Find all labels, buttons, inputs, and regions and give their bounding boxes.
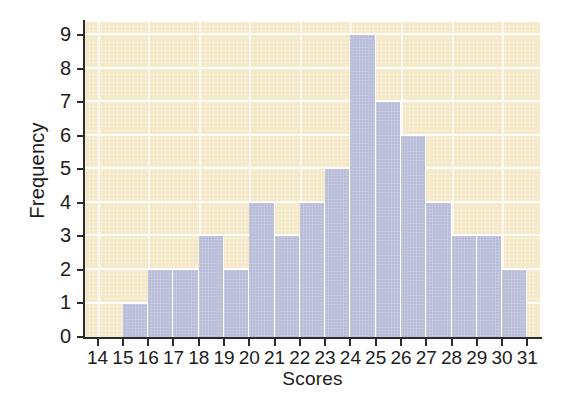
histogram-bar	[401, 136, 426, 337]
y-axis-tick	[77, 302, 84, 304]
y-axis-tick	[77, 336, 84, 338]
x-axis-tick	[223, 339, 225, 346]
histogram-bar	[199, 236, 224, 337]
y-axis-tick-label: 1	[31, 292, 71, 312]
histogram-bar	[350, 35, 375, 337]
y-axis-tick-label: 6	[31, 125, 71, 145]
y-axis-tick	[77, 101, 84, 103]
y-axis-tick-label: 3	[31, 225, 71, 245]
gridline-vertical	[98, 22, 100, 337]
x-axis-tick	[451, 339, 453, 346]
gridline-horizontal	[85, 134, 540, 136]
x-axis-tick	[299, 339, 301, 346]
x-axis-tick-label: 31	[510, 348, 544, 367]
x-axis-tick	[324, 339, 326, 346]
y-axis-tick	[77, 235, 84, 237]
y-axis-tick	[77, 202, 84, 204]
histogram-bar	[452, 236, 477, 337]
y-axis-tick-label: 4	[31, 192, 71, 212]
x-axis-tick	[147, 339, 149, 346]
x-axis-tick	[274, 339, 276, 346]
gridline-horizontal	[85, 100, 540, 102]
histogram-figure: Frequency 0123456789 1415161718192021222…	[0, 0, 580, 407]
histogram-bar	[502, 270, 527, 337]
y-axis-tick	[77, 135, 84, 137]
x-axis-tick	[501, 339, 503, 346]
x-axis-line	[83, 337, 542, 339]
x-axis-tick	[375, 339, 377, 346]
gridline-horizontal	[85, 167, 540, 169]
gridline-horizontal	[85, 67, 540, 69]
plot-area	[85, 22, 540, 337]
y-axis-tick-label: 7	[31, 91, 71, 111]
histogram-bar	[300, 203, 325, 337]
y-axis-tick-label: 9	[31, 24, 71, 44]
y-axis-tick	[77, 68, 84, 70]
histogram-bar	[123, 304, 148, 338]
gridline-horizontal	[85, 33, 540, 35]
x-axis-tick	[349, 339, 351, 346]
x-axis-tick	[476, 339, 478, 346]
y-axis-tick-label: 2	[31, 259, 71, 279]
histogram-bar	[275, 236, 300, 337]
x-axis-tick	[198, 339, 200, 346]
y-axis-tick	[77, 168, 84, 170]
y-axis-tick-label: 8	[31, 58, 71, 78]
histogram-bar	[224, 270, 249, 337]
histogram-bar	[477, 236, 502, 337]
histogram-bar	[325, 169, 350, 337]
y-axis-tick	[77, 34, 84, 36]
x-axis-tick	[425, 339, 427, 346]
x-axis-title: Scores	[85, 368, 540, 390]
histogram-bar	[148, 270, 173, 337]
histogram-bar	[426, 203, 451, 337]
x-axis-tick	[400, 339, 402, 346]
x-axis-tick	[248, 339, 250, 346]
x-axis-tick	[122, 339, 124, 346]
histogram-bar	[376, 102, 401, 337]
x-axis-tick	[97, 339, 99, 346]
x-axis-tick	[526, 339, 528, 346]
y-axis-tick-label: 5	[31, 158, 71, 178]
histogram-bar	[173, 270, 198, 337]
histogram-bar	[249, 203, 274, 337]
y-axis-tick-label: 0	[31, 326, 71, 346]
x-axis-tick	[172, 339, 174, 346]
y-axis-tick	[77, 269, 84, 271]
